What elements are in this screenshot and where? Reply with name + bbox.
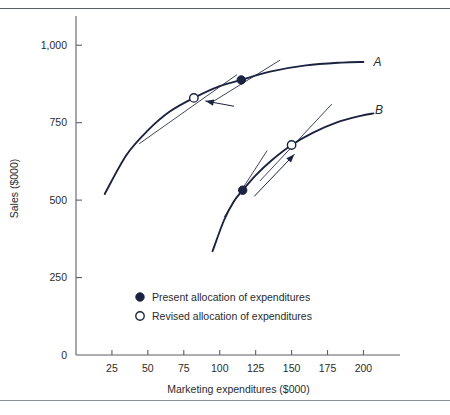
- y-tick-label: 750: [49, 116, 67, 128]
- legend-label-present: Present allocation of expenditures: [152, 291, 310, 303]
- x-axis-title: Marketing expenditures ($000): [167, 383, 309, 395]
- y-tick-label: 0: [61, 349, 67, 361]
- bottom-divider-rule: [0, 400, 450, 401]
- x-tick-label: 100: [211, 362, 229, 374]
- shift-arrow-a: [205, 99, 234, 106]
- legend-marker-revised: [136, 312, 144, 320]
- present-allocation-marker-b: [239, 186, 247, 194]
- x-tick-label: 75: [178, 362, 190, 374]
- curve-label-a: A: [373, 55, 382, 69]
- y-axis-title: Sales ($000): [8, 159, 20, 219]
- tangent-line-revised-b: [260, 104, 332, 181]
- sales-vs-marketing-expenditures-chart: 02505007501,000 255075100125150175200 A …: [0, 0, 450, 415]
- curve-label-b: B: [375, 103, 383, 117]
- x-axis-ticks: 255075100125150175200: [106, 350, 372, 374]
- x-tick-label: 175: [319, 362, 337, 374]
- present-allocation-marker-a: [237, 76, 245, 84]
- y-tick-label: 250: [49, 271, 67, 283]
- tangent-line-revised-a: [139, 75, 237, 144]
- legend-marker-present: [136, 293, 144, 301]
- legend-label-revised: Revised allocation of expenditures: [152, 310, 312, 322]
- arrow-head: [205, 99, 214, 105]
- top-divider-rule: [0, 8, 450, 9]
- x-tick-label: 200: [355, 362, 373, 374]
- x-tick-label: 125: [247, 362, 265, 374]
- x-tick-label: 150: [283, 362, 301, 374]
- tangent-line-present-b: [224, 151, 267, 218]
- x-tick-label: 25: [106, 362, 118, 374]
- curve-b: [213, 113, 374, 251]
- chart-figure: 02505007501,000 255075100125150175200 A …: [0, 0, 450, 415]
- allocation-markers: [190, 76, 296, 195]
- y-tick-label: 1,000: [41, 39, 67, 51]
- chart-legend: Present allocation of expendituresRevise…: [136, 291, 312, 322]
- revised-allocation-marker-b: [287, 141, 295, 149]
- curve-paths: [105, 62, 374, 251]
- x-tick-label: 50: [142, 362, 154, 374]
- revised-allocation-marker-a: [190, 94, 198, 102]
- y-tick-label: 500: [49, 194, 67, 206]
- tangent-line-present-a: [214, 60, 280, 101]
- axes-group: [76, 16, 400, 355]
